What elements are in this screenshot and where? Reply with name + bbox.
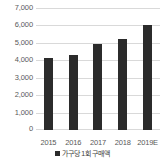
x-tick-label-2019e: 2019E (137, 138, 158, 147)
y-axis: 7,000 6,000 5,000 4,000 3,000 2,000 1,00… (0, 8, 33, 130)
bar-2018[interactable] (118, 39, 127, 130)
chart-legend: 가구당 1회 구매액 (0, 147, 165, 160)
y-tick-label-4000: 4,000 (15, 56, 33, 64)
x-tick-label-2016: 2016 (65, 138, 81, 147)
x-tick-label-2017: 2017 (90, 138, 106, 147)
y-tick-label-0: 0 (29, 125, 33, 133)
bar-2017[interactable] (93, 44, 102, 130)
bar-slot (110, 8, 135, 130)
legend-item-label: 가구당 1회 구매액 (62, 149, 110, 158)
x-tick-label-2018: 2018 (115, 138, 131, 147)
x-tick-slot: 2017 (86, 131, 111, 143)
y-tick-label-7000: 7,000 (15, 4, 33, 12)
x-tick-slot: 2016 (61, 131, 86, 143)
bar-2015[interactable] (44, 58, 53, 130)
bar-chart: 7,000 6,000 5,000 4,000 3,000 2,000 1,00… (0, 0, 165, 161)
x-tick-slot: 2015 (36, 131, 61, 143)
x-axis: 2015 2016 2017 2018 2019E (36, 131, 160, 143)
y-tick-label-1000: 1,000 (15, 109, 33, 117)
y-tick-label-5000: 5,000 (15, 39, 33, 47)
y-tick-label-3000: 3,000 (15, 74, 33, 82)
bar-slot (135, 8, 160, 130)
bar-slot (36, 8, 61, 130)
x-tick-label-2015: 2015 (40, 138, 56, 147)
x-tick-slot: 2019E (135, 131, 160, 143)
y-tick-label-6000: 6,000 (15, 21, 33, 29)
bar-slot (86, 8, 111, 130)
bars-layer (36, 8, 160, 130)
bar-2019e[interactable] (143, 25, 152, 130)
x-tick-slot: 2018 (110, 131, 135, 143)
bar-2016[interactable] (69, 55, 78, 130)
square-marker-icon (55, 151, 60, 156)
y-tick-label-2000: 2,000 (15, 91, 33, 99)
bar-slot (61, 8, 86, 130)
